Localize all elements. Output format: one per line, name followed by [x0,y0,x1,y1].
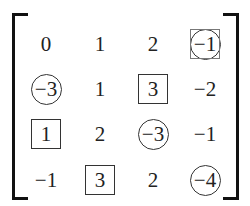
matrix-cell-value: −1 [35,170,57,191]
matrix-cell-value: 2 [148,170,159,191]
matrix-cell-value: 1 [95,79,106,100]
matrix-cell-value: 1 [41,124,52,145]
matrix-cell-r1-c3: −2 [187,71,223,107]
right-bracket [223,13,239,200]
matrix-cell-value: 1 [95,34,106,55]
matrix-cell-r2-c0-square: 1 [28,116,64,152]
matrix-cell-r1-c1: 1 [82,71,118,107]
matrix-cell-r0-c2: 2 [135,26,171,62]
matrix-cell-r3-c3-circle: −4 [187,162,223,198]
matrix-cell-value: 0 [41,34,52,55]
matrix-cell-value: −3 [35,79,57,100]
matrix-cell-r3-c2: 2 [135,162,171,198]
matrix-cell-r1-c0-circle: −3 [28,71,64,107]
matrix-cell-r3-c0: −1 [28,162,64,198]
left-bracket [12,13,28,200]
matrix-cell-value: −3 [142,124,164,145]
matrix-cell-value: 3 [148,79,159,100]
matrix-cell-value: 2 [148,34,159,55]
matrix-cell-value: −4 [194,170,216,191]
matrix-cell-r0-c0: 0 [28,26,64,62]
matrix-cell-r0-c1: 1 [82,26,118,62]
matrix-cell-value: −2 [194,79,216,100]
matrix-cell-r2-c3: −1 [187,116,223,152]
matrix-cell-value: 2 [95,124,106,145]
matrix-cell-r1-c2-square: 3 [135,71,171,107]
matrix-cell-value: −1 [194,124,216,145]
matrix-cell-value: 3 [95,170,106,191]
matrix-cell-r3-c1-square: 3 [82,162,118,198]
matrix-cell-r2-c1: 2 [82,116,118,152]
matrix-cell-r0-c3-circle-in-square: −1 [187,26,223,62]
matrix-cell-r2-c2-circle: −3 [135,116,171,152]
matrix-cell-value: −1 [194,34,216,55]
